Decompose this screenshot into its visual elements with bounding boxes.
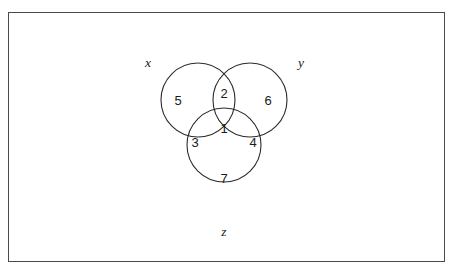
region-value-z-only: 7	[220, 171, 227, 186]
set-label-y: y	[296, 55, 304, 70]
set-label-x: x	[144, 55, 151, 70]
venn-diagram: x y z 5 2 6 3 1 4 7	[0, 0, 454, 275]
region-value-x-and-z: 3	[191, 135, 198, 150]
region-value-x-only: 5	[174, 93, 181, 108]
region-value-x-and-y: 2	[220, 86, 227, 101]
region-value-all-three: 1	[220, 121, 227, 136]
region-value-y-and-z: 4	[249, 135, 256, 150]
diagram-canvas: x y z 5 2 6 3 1 4 7	[0, 0, 454, 275]
set-label-z: z	[220, 224, 227, 239]
region-value-y-only: 6	[264, 93, 271, 108]
